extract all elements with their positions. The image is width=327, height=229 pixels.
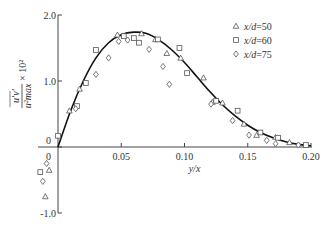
y-tick-label: -1.0 [40, 208, 56, 219]
diamond-marker [116, 38, 121, 44]
square-marker [156, 37, 161, 42]
square-marker [132, 36, 137, 41]
square-marker [83, 81, 88, 86]
square-marker [94, 48, 99, 53]
y-tick-label: 1.0 [44, 76, 57, 87]
legend-triangle-icon [233, 23, 239, 28]
diamond-marker [106, 55, 111, 61]
legend-square-icon [234, 38, 239, 43]
diamond-marker [230, 118, 235, 124]
triangle-marker [115, 32, 121, 37]
diamond-marker [167, 81, 172, 87]
y-axis-label: u′v′u²max× 10² [10, 60, 33, 108]
legend-label: x/d=50 [243, 21, 272, 32]
triangle-marker [201, 75, 207, 80]
x-tick-label: 0.05 [113, 151, 131, 162]
diamond-marker [273, 141, 278, 147]
axes: 2.01.00-1.000.050.100.150.20 [38, 10, 320, 219]
diamond-marker [247, 132, 252, 138]
triangle-marker [43, 194, 49, 199]
y-label-multiplier: × 10² [17, 60, 28, 81]
y-label-numerator: u′v′ [10, 88, 21, 103]
x-tick-label: 0.15 [239, 151, 257, 162]
diamond-marker [94, 71, 99, 77]
axis-labels: y/xu′v′u²max× 10² [10, 60, 201, 174]
x-tick-label: 0.20 [302, 151, 320, 162]
triangle-marker [46, 167, 52, 172]
y-label-denominator: u²max [22, 83, 33, 108]
square-marker [276, 135, 281, 140]
square-marker [235, 108, 240, 113]
diamond-marker [40, 178, 45, 184]
square-marker [56, 133, 61, 138]
legend: x/d=50x/d=60x/d=75 [233, 21, 272, 60]
square-marker [185, 71, 190, 76]
legend-label: x/d=60 [243, 35, 272, 46]
x-axis-label: y/x [188, 163, 201, 174]
diamond-marker [161, 63, 166, 69]
square-marker [177, 46, 182, 51]
x-tick-label: 0.10 [176, 151, 194, 162]
legend-label: x/d=75 [243, 49, 272, 60]
diamond-marker [264, 137, 269, 143]
triangle-marker [164, 50, 170, 55]
diamond-marker [147, 46, 152, 52]
square-marker [214, 98, 219, 103]
legend-diamond-icon [234, 51, 239, 57]
square-marker [121, 34, 126, 39]
square-marker [38, 170, 43, 175]
y-tick-label: 0 [46, 135, 51, 146]
square-marker [304, 143, 309, 148]
y-tick-label: 2.0 [44, 10, 57, 21]
square-marker [137, 40, 142, 45]
chart: 2.01.00-1.000.050.100.150.20 x/d=50x/d=6… [0, 0, 327, 229]
triangle-marker [77, 86, 83, 91]
square-marker [258, 130, 263, 135]
